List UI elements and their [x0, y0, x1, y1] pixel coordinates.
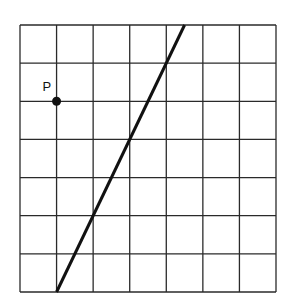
grid	[20, 25, 276, 292]
straight-line	[57, 25, 185, 292]
grid-diagram	[0, 0, 289, 295]
point-p	[52, 97, 61, 106]
point-p-label: P	[43, 79, 52, 94]
